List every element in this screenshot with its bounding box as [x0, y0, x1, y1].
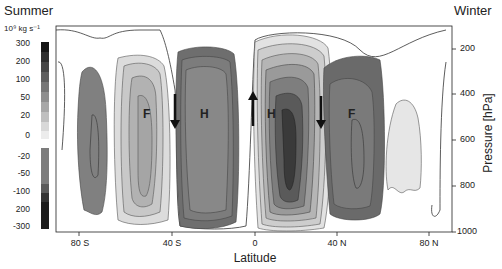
x-tick-label: 40 S: [158, 238, 186, 248]
ferrel-label-south: F: [143, 107, 150, 121]
x-tick-label: 0: [241, 238, 269, 248]
y-axis-ticks: [452, 49, 456, 232]
x-tick-label: 80 N: [415, 238, 443, 248]
ferrel-label-north: F: [348, 107, 355, 121]
colorbar: [41, 42, 49, 229]
x-tick-label: 40 N: [323, 238, 351, 248]
x-axis-title: Latitude: [205, 251, 305, 265]
y-tick-label: 200: [460, 43, 475, 53]
y-tick-label: 800: [460, 180, 475, 190]
x-tick-label: 80 S: [66, 238, 94, 248]
y-axis-title: Pressure [hPa]: [481, 83, 495, 183]
hadley-label-north: H: [267, 107, 276, 121]
contour-plot: [0, 0, 502, 269]
y-tick-label: 600: [460, 134, 475, 144]
y-tick-label: 400: [460, 88, 475, 98]
polar-cell-south: [77, 67, 107, 214]
hadley-label-south: H: [200, 107, 209, 121]
x-axis-ticks: [79, 232, 429, 236]
y-tick-label: 1000: [457, 226, 477, 236]
